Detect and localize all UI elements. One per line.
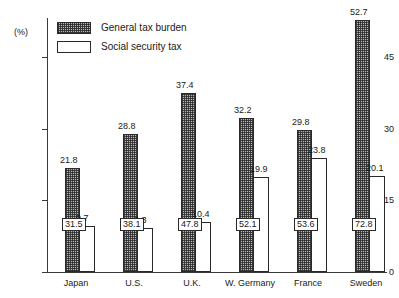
bar-group: 32.219.952.1 (231, 0, 285, 272)
bar-value-label-social: 20.1 (366, 164, 384, 173)
bar-general-tax-burden (239, 118, 254, 272)
plot-area: 21.89.731.5Japan28.89.338.1U.S.37.410.44… (47, 0, 387, 298)
x-axis-category-label: Japan (49, 279, 103, 288)
x-axis-category-label: U.S. (107, 279, 161, 288)
bar-total-annotation: 52.1 (236, 218, 260, 231)
x-axis-category-label: W. Germany (223, 279, 277, 288)
bar-total-annotation: 31.5 (62, 218, 86, 231)
bar-value-label-general: 28.8 (118, 122, 136, 131)
bar-group: 28.89.338.1 (115, 0, 169, 272)
bar-value-label-social: 19.9 (250, 165, 268, 174)
bar-total-annotation: 72.8 (352, 218, 376, 231)
x-axis-category-label: Sweden (339, 279, 393, 288)
bar-group: 29.823.853.6 (289, 0, 343, 272)
bar-group: 52.720.172.8 (347, 0, 399, 272)
bar-general-tax-burden (355, 20, 370, 272)
bar-total-annotation: 53.6 (294, 218, 318, 231)
bar-value-label-general: 32.2 (234, 106, 252, 115)
bar-general-tax-burden (123, 134, 138, 272)
x-axis-category-label: France (281, 279, 335, 288)
bar-group: 37.410.447.8 (173, 0, 227, 272)
bar-value-label-general: 37.4 (176, 81, 194, 90)
x-axis-category-label: U.K. (165, 279, 219, 288)
bar-total-annotation: 47.8 (178, 218, 202, 231)
bar-value-label-general: 52.7 (350, 8, 368, 17)
bar-value-label-general: 29.8 (292, 118, 310, 127)
bar-value-label-social: 23.8 (308, 146, 326, 155)
bar-value-label-general: 21.8 (60, 156, 78, 165)
bar-group: 21.89.731.5 (57, 0, 111, 272)
bar-total-annotation: 38.1 (120, 218, 144, 231)
y-axis-unit-label: (%) (14, 28, 28, 37)
bar-general-tax-burden (181, 93, 196, 272)
